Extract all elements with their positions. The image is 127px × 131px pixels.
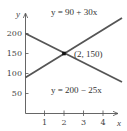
y-axis-label: y [15,9,20,19]
y-tick-150: 150 [7,49,22,58]
y-tick-100: 100 [7,69,22,78]
line1-label: y = 90 + 30x [51,7,98,17]
x-axis-label: x [116,118,121,128]
intersection-label: (2, 150) [74,49,103,59]
x-tick-4: 4 [100,118,105,127]
x-tick-1: 1 [42,118,47,127]
x-tick-3: 3 [81,118,86,127]
line-chart: 50 100 150 200 1 2 3 4 y x y = 90 + 30x … [0,0,127,131]
x-ticks: 1 2 3 4 [42,111,106,128]
x-tick-2: 2 [61,118,66,127]
y-tick-50: 50 [12,89,22,98]
intersection-point [62,52,66,56]
line2-label: y = 200 − 25x [51,85,102,95]
y-tick-200: 200 [7,29,22,38]
line-increasing [26,18,123,78]
